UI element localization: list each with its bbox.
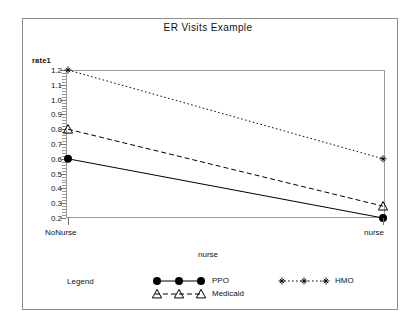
x-tick-mark xyxy=(383,218,384,225)
legend-label-ppo: PPO xyxy=(212,276,229,285)
y-tick-label: 0.8 xyxy=(36,125,62,134)
y-tick-label: 0.7 xyxy=(36,140,62,149)
y-axis-tick-labels: 1.2 1.1 1.0 0.9 0.8 0.7 0.6 0.5 0.4 0.3 … xyxy=(34,70,62,218)
chart-legend: Legend PPO Medicaid HMO xyxy=(24,272,396,308)
y-tick-label: 0.6 xyxy=(36,154,62,163)
y-tick-label: 1.1 xyxy=(36,80,62,89)
y-tick-label: 1.0 xyxy=(36,95,62,104)
y-tick-label: 0.2 xyxy=(36,214,62,223)
x-axis-label: nurse xyxy=(0,250,416,259)
x-tick-mark xyxy=(68,218,69,225)
y-axis-label: rate1 xyxy=(32,56,51,65)
legend-label-hmo: HMO xyxy=(335,276,354,285)
legend-label-medicaid: Medicaid xyxy=(212,289,244,298)
y-tick-label: 0.3 xyxy=(36,199,62,208)
y-tick-label: 1.2 xyxy=(36,66,62,75)
x-tick-label: NoNurse xyxy=(45,228,77,237)
plot-series-layer xyxy=(66,70,385,218)
y-tick-label: 0.5 xyxy=(36,169,62,178)
chart-title: ER Visits Example xyxy=(0,22,416,33)
chart-page: ER Visits Example rate1 1.2 1.1 1.0 0.9 … xyxy=(0,0,416,326)
y-tick-label: 0.4 xyxy=(36,184,62,193)
y-tick-label: 0.9 xyxy=(36,110,62,119)
x-tick-label: nurse xyxy=(364,228,384,237)
